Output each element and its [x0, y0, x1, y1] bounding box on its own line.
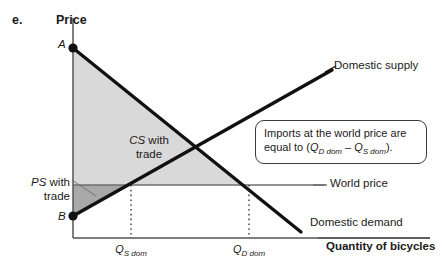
callout-line-2-pre: equal to ( [264, 141, 310, 153]
world-price-label: World price [330, 177, 388, 191]
point-a-marker [68, 43, 77, 52]
domestic-supply-label: Domestic supply [334, 59, 418, 73]
callout-line-1: Imports at the world price are [264, 127, 406, 139]
xtick-qd-main: Q [233, 243, 242, 255]
callout-minus: – [342, 141, 354, 153]
cs-abbrev: CS [129, 134, 145, 146]
callout-qs: Q [354, 141, 363, 153]
point-a-label: A [58, 38, 66, 52]
ps-abbrev: PS [31, 176, 46, 188]
imports-callout-box: Imports at the world price are equal to … [255, 120, 427, 164]
xtick-qs-main: Q [115, 243, 124, 255]
callout-qd-sub: D dom [318, 147, 342, 156]
economics-diagram-figure: e. Price Quantity of bicycles A B Domest… [0, 0, 442, 276]
xtick-qd-sub: D dom [242, 249, 266, 258]
xtick-qs-sub: S dom [124, 249, 147, 258]
part-letter: e. [12, 13, 22, 28]
callout-line-2-post: ). [386, 141, 393, 153]
y-axis-title: Price [56, 13, 87, 28]
cs-with: with [148, 134, 168, 146]
ps-trade: trade [44, 190, 70, 202]
cs-trade: trade [136, 148, 162, 160]
x-axis-title: Quantity of bicycles [326, 240, 435, 254]
point-b-marker [68, 211, 77, 220]
xtick-qs-dom: QS dom [115, 243, 147, 258]
xtick-qd-dom: QD dom [233, 243, 265, 258]
ps-with-trade-label: PS with trade [14, 176, 70, 203]
domestic-demand-label: Domestic demand [310, 216, 403, 230]
cs-with-trade-label: CS with trade [111, 134, 187, 161]
callout-qs-sub: S dom [363, 147, 386, 156]
point-b-label: B [58, 210, 66, 224]
ps-with: with [50, 176, 70, 188]
